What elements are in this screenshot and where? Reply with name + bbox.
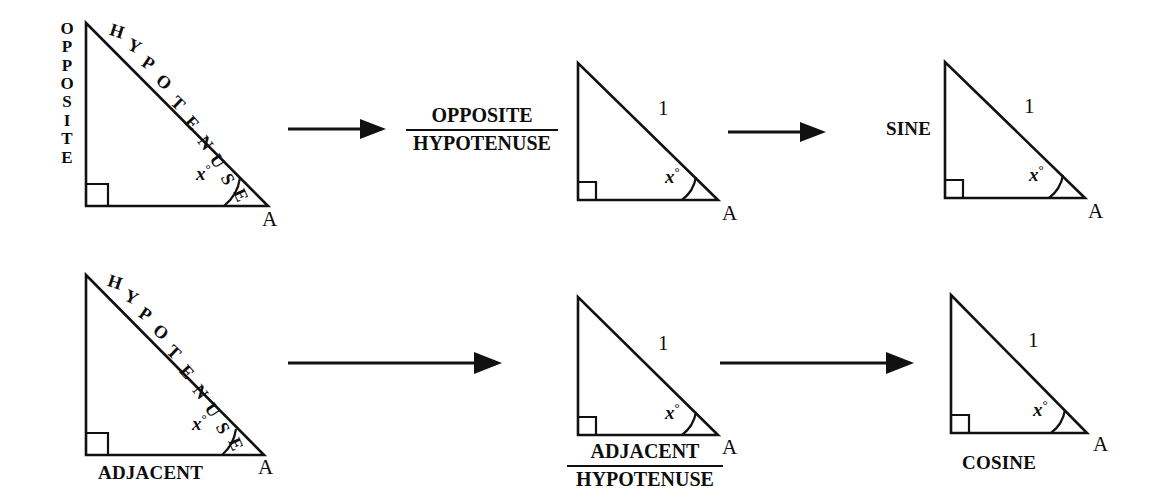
fraction-denominator: HYPOTENUSE <box>406 131 558 156</box>
triangle-outline <box>578 297 718 435</box>
sine-unit-vertex-a-label: A <box>722 203 737 224</box>
right-angle-marker <box>578 182 596 200</box>
angle-arc <box>1049 175 1063 198</box>
fraction-numerator: OPPOSITE <box>406 104 558 129</box>
angle-arc <box>1051 410 1065 433</box>
arrow-head <box>886 352 914 374</box>
sine-unit-hypotenuse-value: 1 <box>658 98 669 119</box>
right-angle-marker <box>86 184 108 206</box>
cosine-result-hypotenuse-value: 1 <box>1028 330 1039 351</box>
right-angle-marker <box>86 433 108 455</box>
right-angle-marker <box>951 415 969 433</box>
sine-unit-angle-label: x° <box>665 165 680 186</box>
arrow-bottom-left <box>286 346 516 380</box>
angle-arc <box>682 412 696 435</box>
sine-result-hypotenuse-value: 1 <box>1024 96 1035 117</box>
trigonometry-diagram: O P P O S I T E H Y P O T E N U S E x° A… <box>0 0 1159 499</box>
arrow-top-right <box>726 115 836 149</box>
triangle-outline <box>945 62 1085 198</box>
cosine-triangle-labeled <box>0 255 320 485</box>
cosine-result-base-label: COSINE <box>962 453 1036 472</box>
cosine-result-vertex-a-label: A <box>1093 434 1108 455</box>
sine-result-leg-label: SINE <box>886 119 931 138</box>
fraction-numerator: ADJACENT <box>567 440 723 465</box>
arrow-head <box>474 352 502 374</box>
sine-result-angle-label: x° <box>1029 163 1044 184</box>
right-angle-marker <box>578 417 596 435</box>
cosine-vertex-a-label: A <box>258 457 273 478</box>
arrow-head <box>800 122 826 142</box>
cosine-angle-label: x° <box>192 412 207 433</box>
arrow-head <box>360 119 386 139</box>
sine-ratio-fraction: OPPOSITE HYPOTENUSE <box>406 104 558 156</box>
triangle-outline <box>578 63 718 200</box>
sine-opposite-label: O P P O S I T E <box>56 20 78 167</box>
sine-vertex-a-label: A <box>262 209 277 230</box>
angle-arc <box>682 177 696 200</box>
right-angle-marker <box>945 180 963 198</box>
fraction-denominator: HYPOTENUSE <box>567 467 723 492</box>
cosine-adjacent-label: ADJACENT <box>98 463 203 482</box>
cosine-unit-angle-label: x° <box>665 401 680 422</box>
cosine-result-angle-label: x° <box>1033 398 1048 419</box>
triangle-outline <box>86 275 264 455</box>
cosine-ratio-fraction: ADJACENT HYPOTENUSE <box>567 440 723 492</box>
triangle-outline <box>951 295 1087 433</box>
arrow-bottom-right <box>718 346 928 380</box>
cosine-unit-hypotenuse-value: 1 <box>658 333 669 354</box>
sine-triangle-labeled <box>0 0 320 240</box>
arrow-top-left <box>286 112 396 146</box>
sine-result-vertex-a-label: A <box>1088 201 1103 222</box>
sine-angle-label: x° <box>196 162 211 183</box>
cosine-unit-vertex-a-label: A <box>722 437 737 458</box>
